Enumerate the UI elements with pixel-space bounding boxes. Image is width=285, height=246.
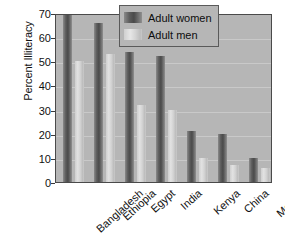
y-tick-mark-0 xyxy=(51,183,55,184)
bar-kenya-adult-women xyxy=(187,131,196,182)
bar-china-adult-women xyxy=(218,134,227,182)
legend-item-adult-women: Adult women xyxy=(124,9,212,26)
bar-group-ethiopia xyxy=(94,15,115,182)
y-tick-mark-10 xyxy=(51,159,55,160)
x-tick-label-kenya: Kenya xyxy=(211,187,242,217)
bar-egypt-adult-men xyxy=(137,105,146,182)
y-tick-mark-70 xyxy=(51,14,55,15)
bar-group-china xyxy=(218,15,239,182)
y-tick-mark-50 xyxy=(51,62,55,63)
bar-group-mexico xyxy=(249,15,270,182)
y-tick-mark-20 xyxy=(51,135,55,136)
y-tick-mark-30 xyxy=(51,111,55,112)
legend-swatch-adult-women xyxy=(124,12,142,23)
illiteracy-bar-chart: Percent Illiteracy 010203040506070 Adult… xyxy=(0,0,285,246)
legend-swatch-adult-men xyxy=(124,29,142,40)
y-tick-mark-40 xyxy=(51,86,55,87)
y-tick-label-0: 0 xyxy=(26,177,51,189)
legend-item-adult-men: Adult men xyxy=(124,26,212,43)
bar-ethiopia-adult-women xyxy=(94,23,103,182)
y-tick-mark-60 xyxy=(51,38,55,39)
bar-ethiopia-adult-men xyxy=(106,54,115,182)
chart-legend: Adult women Adult men xyxy=(119,5,219,47)
bar-bangladesh-adult-men xyxy=(75,61,84,182)
bar-egypt-adult-women xyxy=(125,52,134,182)
bar-kenya-adult-men xyxy=(199,158,208,182)
y-axis-tick-labels: 010203040506070 xyxy=(26,0,51,246)
y-tick-label-60: 60 xyxy=(26,32,51,44)
legend-label-adult-women: Adult women xyxy=(148,12,212,24)
y-tick-label-40: 40 xyxy=(26,80,51,92)
bar-china-adult-men xyxy=(230,165,239,182)
bar-mexico-adult-men xyxy=(261,168,270,182)
legend-label-adult-men: Adult men xyxy=(148,29,198,41)
y-tick-label-20: 20 xyxy=(26,129,51,141)
y-tick-label-50: 50 xyxy=(26,56,51,68)
bar-mexico-adult-women xyxy=(249,158,258,182)
x-tick-label-china: China xyxy=(241,187,270,215)
y-tick-label-10: 10 xyxy=(26,153,51,165)
bar-india-adult-women xyxy=(156,56,165,182)
x-tick-label-mexico: Mexico xyxy=(273,187,285,219)
bar-group-bangladesh xyxy=(63,15,84,182)
y-tick-label-70: 70 xyxy=(26,8,51,20)
x-tick-label-india: India xyxy=(178,187,204,212)
bar-india-adult-men xyxy=(168,110,177,182)
y-tick-label-30: 30 xyxy=(26,105,51,117)
bar-bangladesh-adult-women xyxy=(63,15,72,182)
